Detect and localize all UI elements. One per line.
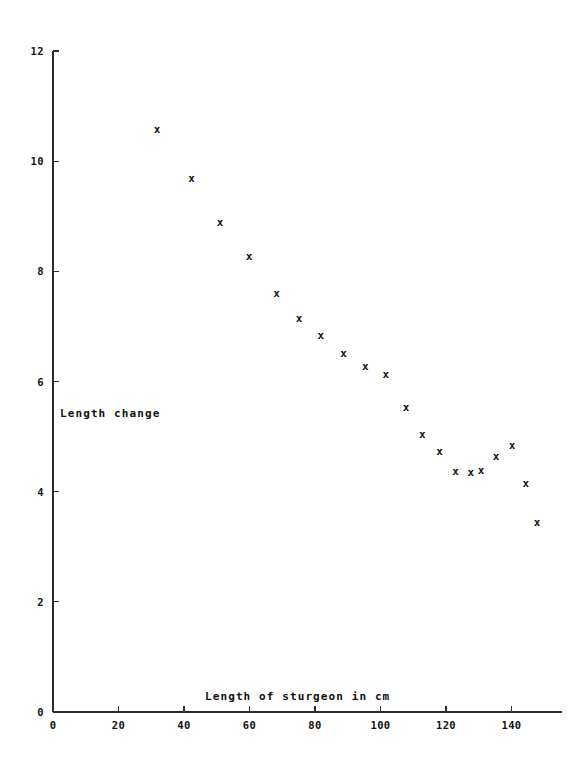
y-tick-label: 2 — [37, 596, 44, 608]
axes-group — [53, 51, 562, 712]
y-tick-label: 8 — [37, 265, 44, 277]
y-tick-label: 10 — [31, 155, 44, 167]
y-axis-ticks: 024681012 — [31, 45, 59, 718]
y-tick-label: 4 — [37, 486, 44, 498]
data-point-marker: x — [534, 516, 541, 529]
data-point-marker: x — [452, 465, 459, 478]
x-tick-label: 140 — [501, 719, 521, 731]
x-tick-label: 60 — [243, 719, 256, 731]
scatter-plot-figure: 020406080100120140 024681012 xxxxxxxxxxx… — [0, 0, 570, 781]
x-tick-label: 20 — [112, 719, 125, 731]
data-point-marker: x — [188, 172, 195, 185]
data-point-marker: x — [493, 450, 500, 463]
y-tick-label: 6 — [37, 376, 44, 388]
y-tick-label: 12 — [31, 45, 44, 57]
data-point-marker: x — [468, 466, 475, 479]
plot-canvas: 020406080100120140 024681012 xxxxxxxxxxx… — [0, 0, 570, 781]
data-point-marker: x — [362, 360, 369, 373]
data-point-marker: x — [246, 250, 253, 263]
data-point-marker: x — [318, 329, 325, 342]
x-axis-title: Length of sturgeon in cm — [205, 690, 390, 703]
data-point-marker: x — [217, 216, 224, 229]
x-tick-label: 120 — [436, 719, 456, 731]
y-tick-label: 0 — [37, 706, 44, 718]
data-point-marker: x — [154, 123, 161, 136]
data-point-marker: x — [523, 477, 530, 490]
data-point-marker: x — [296, 312, 303, 325]
data-point-marker: x — [509, 439, 516, 452]
data-point-marker: x — [419, 428, 426, 441]
data-point-marker: x — [478, 464, 485, 477]
data-point-marker: x — [273, 287, 280, 300]
x-axis-ticks: 020406080100120140 — [50, 706, 522, 731]
data-point-marker: x — [340, 347, 347, 360]
data-point-marker: x — [403, 401, 410, 414]
x-tick-label: 80 — [308, 719, 321, 731]
data-point-marker: x — [436, 445, 443, 458]
data-points-group: xxxxxxxxxxxxxxxxxxxx — [154, 123, 541, 529]
x-tick-label: 40 — [177, 719, 190, 731]
y-axis-title: Length change — [60, 407, 160, 420]
x-tick-label: 100 — [370, 719, 390, 731]
x-tick-label: 0 — [50, 719, 57, 731]
data-point-marker: x — [382, 368, 389, 381]
